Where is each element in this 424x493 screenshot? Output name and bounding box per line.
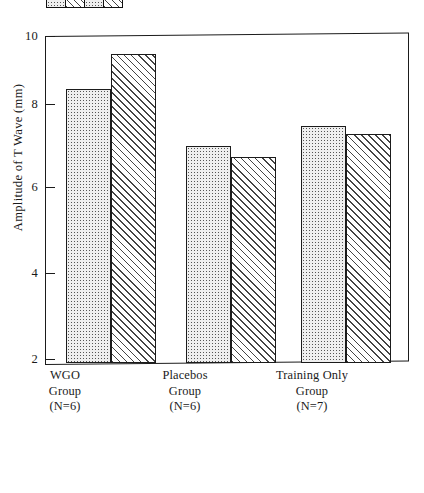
- pre-training-swatch: [47, 0, 66, 7]
- x-group-wgo-line1: WGO: [5, 368, 125, 384]
- y-axis-label: Amplitude of T Wave (mm): [11, 28, 26, 288]
- bar-training-hatched: [346, 134, 391, 363]
- bar-wgo-hatched: [111, 54, 156, 363]
- legend-swatch-3: [85, 0, 104, 7]
- bars-layer: [46, 36, 406, 363]
- x-group-placebos: Placebos Group (N=6): [125, 368, 245, 415]
- post-training-swatch: [66, 0, 85, 7]
- chart-legend: [46, 0, 123, 8]
- bar-placebos-dotted: [186, 146, 231, 363]
- x-group-wgo-line2: Group: [5, 384, 125, 400]
- x-group-training-only: Training Only Group (N=7): [242, 368, 382, 415]
- x-group-wgo-line3: (N=6): [5, 399, 125, 415]
- bar-training-dotted: [301, 126, 346, 363]
- bar-wgo-dotted: [66, 89, 111, 363]
- legend-swatch-4: [104, 0, 122, 7]
- x-group-wgo: WGO Group (N=6): [5, 368, 125, 415]
- x-group-placebos-line1: Placebos: [125, 368, 245, 384]
- x-group-training-line2: Group: [242, 384, 382, 400]
- x-group-placebos-line3: (N=6): [125, 399, 245, 415]
- x-group-training-line3: (N=7): [242, 399, 382, 415]
- y-tick-label-2: 2: [8, 353, 38, 365]
- bar-placebos-hatched: [231, 157, 276, 363]
- x-group-training-line1: Training Only: [242, 368, 382, 384]
- x-group-placebos-line2: Group: [125, 384, 245, 400]
